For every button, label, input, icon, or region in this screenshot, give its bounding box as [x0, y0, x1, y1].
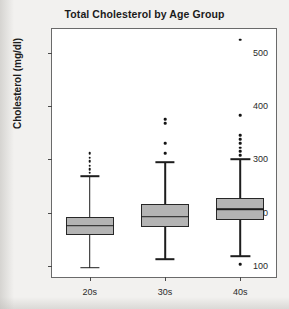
outlier-point — [239, 38, 242, 41]
outlier-point — [239, 150, 242, 153]
outlier-point — [239, 154, 242, 157]
y-axis-title: Cholesterol (mg/dl) — [12, 19, 23, 149]
median-line — [216, 209, 264, 211]
plot-area: 100200300400500 20s30s40s — [51, 28, 277, 278]
outlier-point — [239, 142, 242, 145]
y-tick-label: 500 — [228, 48, 268, 58]
outlier-point — [239, 134, 242, 137]
outlier-point — [239, 146, 242, 149]
outlier-point — [164, 122, 167, 125]
upper-whisker — [89, 176, 91, 216]
outlier-point — [239, 114, 242, 117]
y-tick-label: 400 — [228, 101, 268, 111]
lower-whisker — [164, 227, 166, 259]
x-tick-mark — [240, 277, 241, 281]
x-tick-label-20s: 20s — [67, 287, 113, 297]
y-tick-mark — [48, 266, 52, 267]
lower-whisker-cap — [155, 259, 174, 261]
upper-whisker-cap — [80, 176, 99, 178]
y-tick-mark — [48, 213, 52, 214]
outlier-point — [88, 171, 91, 174]
median-line — [66, 225, 114, 227]
lower-whisker — [240, 220, 242, 256]
y-tick-mark — [48, 53, 52, 54]
outlier-point — [239, 263, 242, 266]
outlier-point — [164, 152, 167, 155]
lower-whisker — [89, 235, 91, 268]
outlier-point — [88, 164, 91, 167]
x-tick-mark — [165, 277, 166, 281]
y-tick-mark — [48, 106, 52, 107]
chart-page: Total Cholesterol by Age Group Cholester… — [0, 0, 289, 309]
outlier-point — [239, 138, 242, 141]
upper-whisker — [240, 159, 242, 197]
x-tick-label-40s: 40s — [217, 287, 263, 297]
lower-whisker-cap — [80, 267, 99, 269]
outlier-point — [164, 118, 167, 121]
outlier-point — [164, 142, 167, 145]
outlier-point — [88, 156, 91, 159]
upper-whisker-cap — [231, 159, 250, 161]
page-title: Total Cholesterol by Age Group — [0, 8, 289, 20]
x-tick-mark — [90, 277, 91, 281]
y-tick-label: 100 — [228, 261, 268, 271]
upper-whisker — [164, 162, 166, 204]
outlier-point — [88, 160, 91, 163]
y-tick-mark — [48, 159, 52, 160]
outlier-point — [88, 152, 91, 155]
median-line — [141, 216, 189, 218]
outlier-point — [88, 168, 91, 171]
upper-whisker-cap — [155, 161, 174, 163]
lower-whisker-cap — [231, 255, 250, 257]
x-tick-label-30s: 30s — [142, 287, 188, 297]
